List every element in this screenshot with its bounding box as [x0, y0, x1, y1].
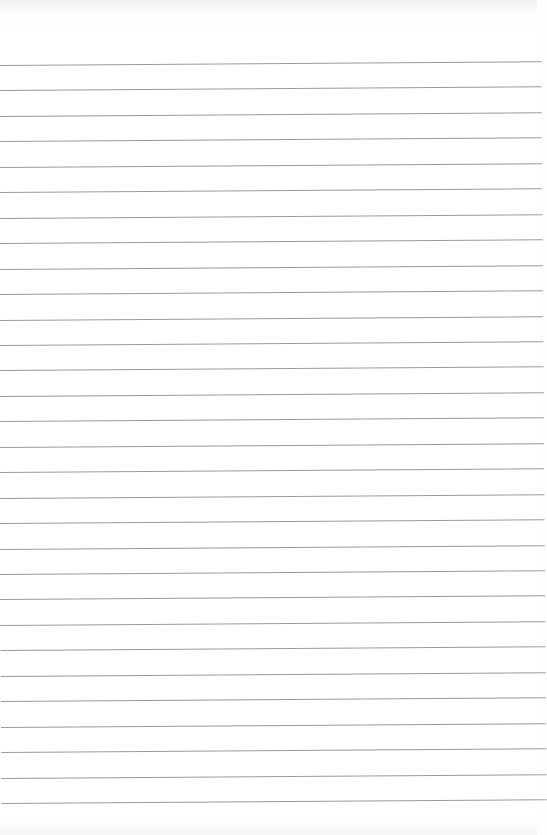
- ruled-line: [0, 417, 544, 422]
- ruled-line: [0, 290, 543, 295]
- ruled-line: [0, 163, 542, 168]
- ruled-line: [0, 316, 543, 321]
- ruled-line: [0, 621, 545, 626]
- ruled-line: [0, 112, 542, 117]
- ruled-line: [1, 748, 546, 753]
- ruled-line: [1, 723, 546, 728]
- ruled-line: [0, 468, 544, 473]
- ruled-line: [0, 494, 544, 499]
- ruled-line: [1, 672, 546, 677]
- ruled-line: [0, 596, 545, 601]
- ruled-line: [0, 367, 544, 372]
- ruled-line: [0, 61, 541, 66]
- ruled-line: [0, 392, 544, 397]
- ruled-line: [0, 443, 544, 448]
- ruled-line: [0, 138, 542, 143]
- ruled-line: [0, 87, 542, 92]
- ruled-line: [0, 214, 543, 219]
- ruled-line: [1, 774, 546, 779]
- ruled-line: [2, 799, 547, 804]
- ruled-line: [0, 188, 542, 193]
- ruled-line: [0, 570, 545, 575]
- ruled-line: [0, 545, 545, 550]
- ruled-line: [0, 341, 543, 346]
- ruled-line: [1, 647, 546, 652]
- ruled-line: [0, 265, 543, 270]
- ruled-line: [1, 697, 546, 702]
- ruled-line: [0, 239, 543, 244]
- ruled-line: [0, 519, 545, 524]
- ruled-lines: [0, 0, 547, 835]
